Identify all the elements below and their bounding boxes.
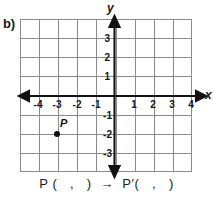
worksheet-figure: b): [0, 0, 213, 197]
x-tick-label--4: -4: [34, 100, 43, 110]
y-axis-label: y: [107, 1, 114, 15]
x-tick-label-1: 1: [131, 100, 137, 110]
x-tick-label-4: 4: [188, 100, 194, 110]
x-axis-label: x: [205, 88, 212, 102]
x-tick-label--2: -2: [73, 100, 82, 110]
y-tick-label--1: -1: [103, 111, 112, 121]
point-p-dot: [54, 131, 60, 137]
y-tick-label-1: 1: [104, 72, 110, 82]
x-tick-label--1: -1: [92, 100, 101, 110]
y-tick-label--3: -3: [103, 149, 112, 159]
y-tick-label-3: 3: [104, 34, 110, 44]
y-tick-label--2: -2: [103, 130, 112, 140]
x-tick-label-3: 3: [169, 100, 175, 110]
answer-expression: P ( , ) → P′( , ): [0, 176, 213, 191]
problem-part-label: b): [3, 16, 15, 31]
x-tick-label-2: 2: [150, 100, 156, 110]
x-tick-label--3: -3: [53, 100, 62, 110]
y-tick-label-2: 2: [104, 53, 110, 63]
point-p-label: P: [60, 117, 67, 129]
